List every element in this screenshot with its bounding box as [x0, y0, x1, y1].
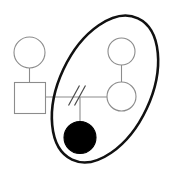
relationship-slash-marks-group: [69, 86, 86, 106]
female-symbol-lower-right[interactable]: [107, 82, 136, 111]
male-symbol-left[interactable]: [15, 83, 46, 114]
affected-female-symbol-offspring[interactable]: [64, 122, 96, 154]
pedigree-svg-canvas: [0, 0, 173, 175]
pedigree-symbols-group: [14, 37, 136, 154]
pedigree-diagram: [0, 0, 173, 175]
household-grouping-ellipse: [30, 0, 173, 175]
female-symbol-upper-right[interactable]: [108, 38, 135, 65]
female-symbol-upper-left[interactable]: [14, 37, 45, 68]
slash-mark-first: [69, 86, 80, 106]
